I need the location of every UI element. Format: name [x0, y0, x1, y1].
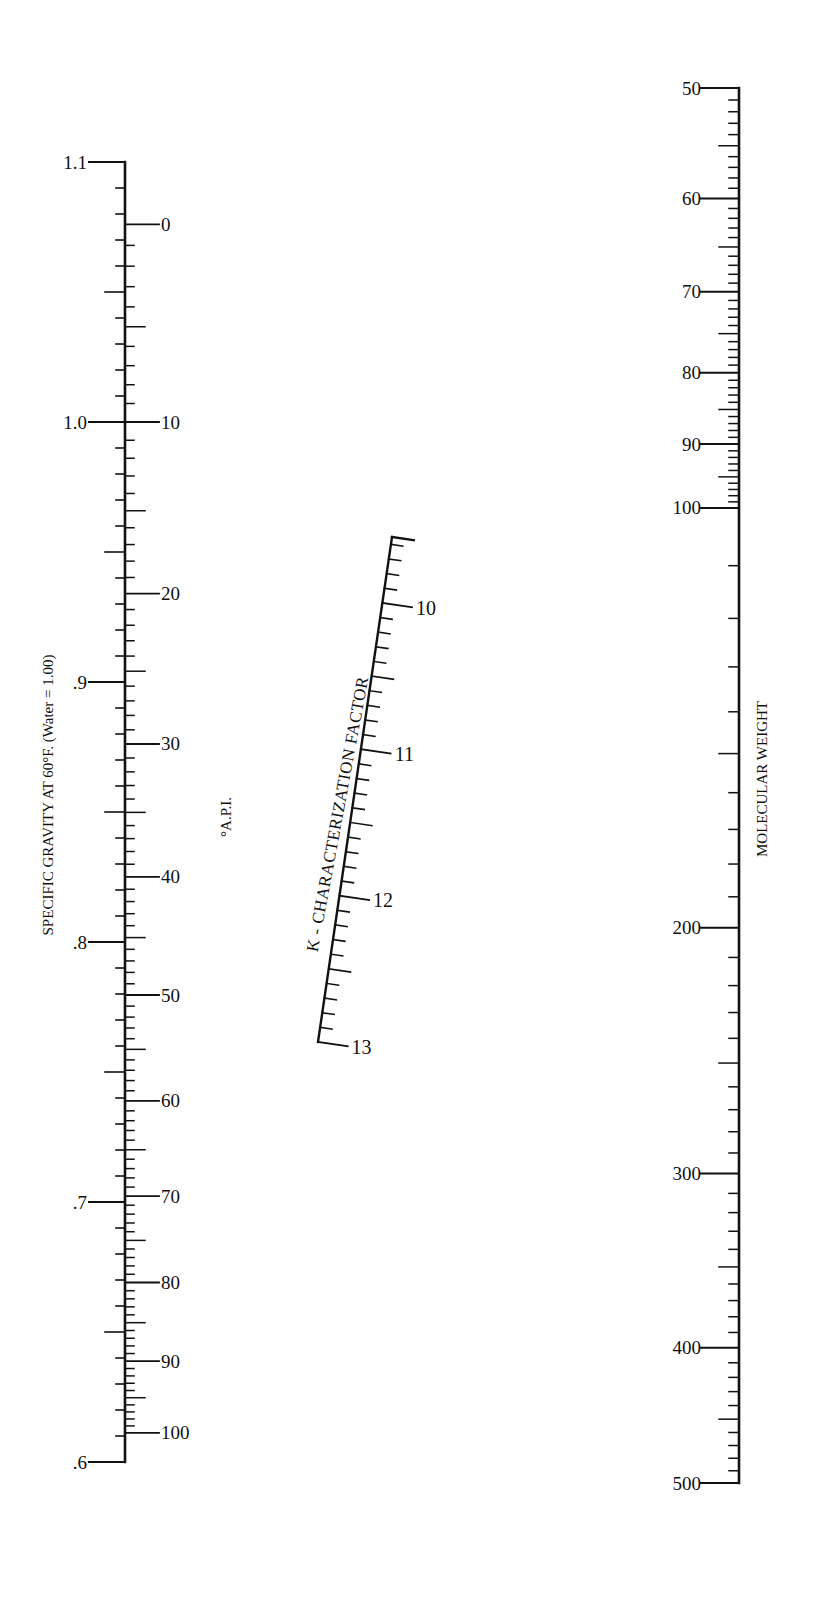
- k-minor-tick: [327, 983, 339, 985]
- k-major-tick: [318, 1042, 348, 1046]
- api-axis-title: °A.P.I.: [218, 797, 234, 837]
- k-minor-tick: [348, 837, 360, 839]
- molecular-weight-scale: 5060708090100200300400500: [673, 78, 740, 1494]
- k-minor-tick: [337, 910, 349, 912]
- k-minor-tick: [354, 793, 366, 795]
- k-minor-tick: [378, 632, 390, 634]
- k-minor-tick: [365, 720, 377, 722]
- mw-tick-label: 100: [673, 497, 702, 518]
- k-minor-tick: [344, 866, 356, 868]
- k-major-tick: [382, 603, 412, 607]
- api-tick-label: 10: [161, 412, 180, 433]
- k-minor-tick: [346, 852, 358, 854]
- api-tick-label: 0: [161, 214, 171, 235]
- k-minor-tick: [322, 1013, 334, 1015]
- api-tick-label: 50: [161, 985, 180, 1006]
- sg-tick-label: .9: [73, 672, 87, 693]
- k-minor-tick: [333, 940, 345, 942]
- k-minor-tick: [376, 647, 388, 649]
- k-minor-tick: [320, 1027, 332, 1029]
- k-tick-label: 10: [416, 597, 436, 619]
- mw-tick-label: 200: [673, 917, 702, 938]
- sg-tick-label: .7: [73, 1192, 87, 1213]
- api-tick-label: 20: [161, 583, 180, 604]
- k-tick-label: 12: [373, 889, 393, 911]
- sg-tick-label: .6: [73, 1452, 87, 1473]
- k-top-cap: [392, 537, 414, 540]
- k-minor-tick: [342, 881, 354, 883]
- api-gravity-scale: 0102030405060708090100: [125, 214, 190, 1444]
- k-tick-label: 11: [395, 743, 414, 765]
- k-minor-tick: [380, 618, 392, 620]
- mw-tick-label: 50: [682, 78, 701, 99]
- k-minor-tick: [387, 574, 399, 576]
- api-tick-label: 30: [161, 733, 180, 754]
- k-minor-tick: [357, 779, 369, 781]
- api-tick-label: 80: [161, 1272, 180, 1293]
- k-minor-tick: [372, 676, 394, 679]
- k-minor-tick: [384, 588, 396, 590]
- api-tick-label: 70: [161, 1186, 180, 1207]
- k-minor-tick: [374, 661, 386, 663]
- k-minor-tick: [391, 544, 403, 546]
- sg-tick-label: 1.1: [63, 152, 87, 173]
- k-minor-tick: [363, 735, 375, 737]
- k-minor-tick: [350, 822, 372, 825]
- k-minor-tick: [329, 969, 351, 972]
- k-minor-tick: [324, 998, 336, 1000]
- k-minor-tick: [389, 559, 401, 561]
- nomograph: 1.11.0.9.8.7.6 0102030405060708090100 10…: [0, 0, 834, 1600]
- specific-gravity-scale: 1.11.0.9.8.7.6: [63, 152, 125, 1473]
- api-tick-label: 40: [161, 866, 180, 887]
- mw-tick-label: 60: [682, 188, 701, 209]
- k-minor-tick: [369, 691, 381, 693]
- sg-tick-label: .8: [73, 932, 87, 953]
- mw-tick-label: 80: [682, 362, 701, 383]
- sg-axis-title: SPECIFIC GRAVITY AT 60°F. (Water = 1.00): [40, 655, 57, 936]
- mw-tick-label: 300: [673, 1163, 702, 1184]
- k-minor-tick: [335, 925, 347, 927]
- k-minor-tick: [367, 705, 379, 707]
- sg-tick-label: 1.0: [63, 412, 87, 433]
- api-tick-label: 100: [161, 1422, 190, 1443]
- mw-tick-label: 70: [682, 281, 701, 302]
- mw-axis-title: MOLECULAR WEIGHT: [754, 701, 770, 857]
- k-minor-tick: [359, 764, 371, 766]
- k-major-tick: [361, 749, 391, 753]
- k-minor-tick: [352, 808, 364, 810]
- mw-tick-label: 90: [682, 434, 701, 455]
- k-major-tick: [339, 896, 369, 900]
- mw-tick-label: 400: [673, 1337, 702, 1358]
- k-axis-line: [318, 537, 392, 1042]
- k-minor-tick: [331, 954, 343, 956]
- k-tick-label: 13: [352, 1036, 372, 1058]
- api-tick-label: 60: [161, 1090, 180, 1111]
- mw-tick-label: 500: [673, 1473, 702, 1494]
- api-tick-label: 90: [161, 1351, 180, 1372]
